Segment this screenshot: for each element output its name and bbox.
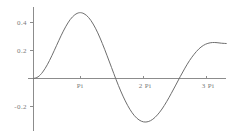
axes-group: [28, 7, 226, 131]
y-tick-label-neg0.2: -0.2: [14, 103, 27, 111]
y-tick-label-0.4: 0.4: [17, 19, 27, 27]
y-tick-label-0.2: 0.2: [17, 47, 27, 55]
y-tick-labels: 0.4 0.2 -0.2: [14, 19, 27, 111]
plot-figure: 0.4 0.2 -0.2 Pi 2 Pi 3 Pi: [0, 0, 227, 136]
data-curve-line: [34, 13, 227, 122]
y-tick-marks: [30, 23, 33, 107]
x-tick-label-pi: Pi: [77, 82, 84, 90]
x-tick-labels: Pi 2 Pi 3 Pi: [77, 82, 215, 90]
plot-canvas: 0.4 0.2 -0.2 Pi 2 Pi 3 Pi: [0, 0, 227, 136]
x-tick-label-2pi: 2 Pi: [139, 82, 152, 90]
x-tick-label-3pi: 3 Pi: [202, 82, 215, 90]
